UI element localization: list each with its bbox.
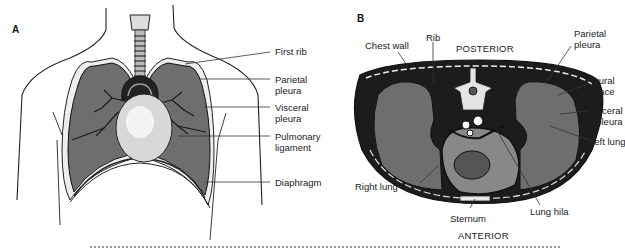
label-left-lung: Left lung [589,136,625,147]
label-sternum: Sternum [450,213,486,224]
cropped-caption [90,246,560,250]
label-parietal-pleura: Parietal pleura [275,74,307,96]
label-first-rib: First rib [275,46,307,57]
label-parietal-pleura-b: Parietal pleura [574,28,606,50]
label-pleural-space: Pleural space [585,75,615,97]
label-lung-hila: Lung hila [530,206,569,217]
label-diaphragm: Diaphragm [275,177,321,188]
label-right-lung: Right lung [355,181,398,192]
label-chest-wall: Chest wall [365,40,409,51]
frontal-thorax-illustration [0,0,330,250]
panel-b-cross-section: B POSTERIOR ANTERIOR [330,0,624,250]
panel-a-frontal-thorax: A [0,0,330,250]
label-visceral-pleura-b: Visceral pleura [589,105,623,127]
label-visceral-pleura: Visceral pleura [275,102,309,124]
trachea [130,15,150,82]
label-pulmonary-ligament: Pulmonary ligament [275,131,320,153]
label-rib: Rib [426,32,440,43]
